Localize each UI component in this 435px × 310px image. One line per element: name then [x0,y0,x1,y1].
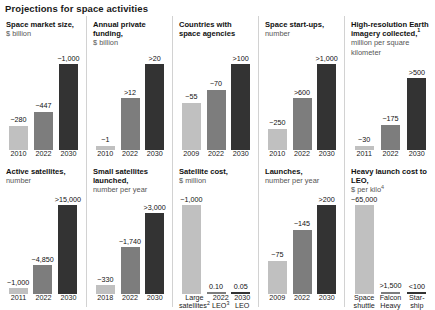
chart-panel: Active satellites,number~1,000~4,850>15,… [0,163,86,307]
chart-grid: Space market size,$ billion~280~447~1,00… [0,16,435,307]
bar-column: >12 [118,54,143,150]
bar-column: ~65,000 [351,195,377,294]
bar [293,230,312,295]
x-axis-tick-label: FalconHeavy [377,294,403,310]
chart-panel: Satellite cost,$ million~1,0000.100.05La… [172,163,258,307]
x-axis: 201120222030 [351,150,430,163]
x-axis-tick-label: 2022 [118,150,143,158]
plot-area: ~330~1,740>3,000201820222030 [93,163,167,307]
bar-column: >20 [142,54,167,150]
x-axis-tick-label: 2010 [93,150,118,158]
x-axis-tick-label: 2030LEO [231,294,253,310]
bar [9,126,28,150]
bar-column: 0.05 [228,195,253,294]
bar [34,112,53,150]
bar-column: >1,500 [377,195,403,294]
bar-value-label: ~280 [10,116,26,124]
bar [33,265,52,294]
bar-value-label: >1,000 [316,55,338,63]
x-axis-tick-label: 2022 [290,294,315,302]
bar-column: ~175 [377,68,403,150]
bar-value-label: >15,000 [55,196,81,204]
bars-container: ~30~175>500 [351,68,430,150]
bar-value-label: ~30 [358,136,370,144]
bars-container: ~75~145>200 [265,195,339,294]
bar-value-label: ~4,850 [32,256,54,264]
bar-value-label: >3,000 [144,204,166,212]
x-axis: 200920222030 [265,294,339,307]
x-axis-tick-label: 2022 [118,294,143,302]
bar-column: 0.10 [204,195,229,294]
plot-area: ~1>12>20201020222030 [93,16,167,163]
plot-area: ~30~175>500201120222030 [351,16,430,163]
x-axis-tick-label: 2010 [265,150,290,158]
bar [317,64,336,150]
plot-area: ~65,000>1,500<100SpaceshuttleFalconHeavy… [351,163,430,307]
bar-column: ~1,740 [118,203,143,294]
bar [381,125,400,150]
chart-panel: Countries with space agencies~55~70>1002… [172,16,258,163]
bar-column: >200 [314,195,339,294]
x-axis-tick-label: 2018 [93,294,118,302]
x-axis-tick-label: 2022 [31,150,56,158]
x-axis-tick-label: 2022 [290,150,315,158]
bar-column: >100 [228,54,253,150]
x-axis-tick-label: 2022LEO3 [210,294,232,310]
x-axis-tick-label: 2030 [228,150,253,158]
bar-column: ~280 [6,54,31,150]
bar-value-label: ~447 [35,102,51,110]
bar-column: ~1,000 [6,195,30,294]
bar [407,78,426,150]
bars-container: ~330~1,740>3,000 [93,203,167,294]
bars-container: ~280~447~1,000 [6,54,81,150]
bar-value-label: ~75 [271,251,283,259]
bar-value-label: >1,500 [379,282,401,290]
bars-container: ~1>12>20 [93,54,167,150]
bar [121,98,140,150]
bar [293,98,312,150]
x-axis-tick-label: 2010 [6,150,31,158]
bar-column: ~1 [93,54,118,150]
bar-column: <100 [404,195,430,294]
chart-panel: Small satellites launched,number per yea… [86,163,172,307]
x-axis-tick-label: 2011 [6,294,31,302]
bar-column: ~1,000 [179,195,204,294]
bar [59,64,78,150]
bar-column: >1,000 [314,54,339,150]
bar [231,64,250,150]
footnote-marker: 3 [226,300,229,306]
bar-value-label: ~1,000 [57,55,79,63]
bar-column: ~70 [204,54,229,150]
bar-value-label: >600 [294,89,310,97]
bar-value-label: <100 [409,283,425,291]
bar-column: ~330 [93,203,118,294]
plot-area: ~75~145>200200920222030 [265,163,339,307]
bar-value-label: >500 [409,69,425,77]
bars-container: ~55~70>100 [179,54,253,150]
bar-value-label: >100 [233,55,249,63]
plot-area: ~1,0000.100.05Largesatellites22022LEO320… [179,163,253,307]
bar-column: ~447 [31,54,56,150]
bar [145,213,164,294]
bar [182,103,201,150]
bar [121,247,140,294]
x-axis-tick-label: 2030 [56,294,81,302]
x-axis: SpaceshuttleFalconHeavyStar-ship [351,294,430,307]
x-axis-tick-label: 2009 [265,294,290,302]
bar-column: >3,000 [142,203,167,294]
bar [268,129,287,151]
bar-column: ~1,000 [56,54,81,150]
chart-panel: Space start-ups,number~250>600>1,0002010… [258,16,344,163]
plot-area: ~250>600>1,000201020222030 [265,16,339,163]
bar [317,205,336,294]
x-axis: 201020222030 [265,150,339,163]
bar-value-label: 0.10 [209,283,223,291]
bar [145,64,164,150]
chart-panel: High-resolution Earth imagery collected,… [344,16,435,163]
x-axis: 201820222030 [93,294,167,307]
bar-value-label: ~1,000 [7,279,29,287]
x-axis-tick-label: Star-ship [404,294,430,310]
bar-value-label: ~1,000 [180,196,202,204]
bars-container: ~1,0000.100.05 [179,195,253,294]
